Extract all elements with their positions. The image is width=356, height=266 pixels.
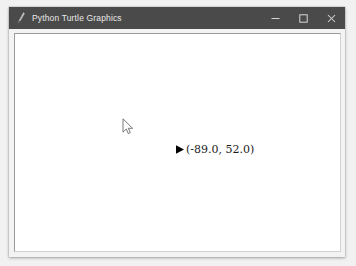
window-title: Python Turtle Graphics — [32, 13, 261, 23]
turtle-coordinate-label: (-89.0, 52.0) — [186, 144, 254, 155]
minimize-icon — [270, 13, 281, 24]
window-body: (-89.0, 52.0) — [9, 29, 345, 257]
turtle-arrow-icon — [175, 144, 185, 155]
minimize-button[interactable] — [261, 7, 289, 29]
turtle-graphics-window: Python Turtle Graphics — [9, 7, 345, 257]
window-titlebar[interactable]: Python Turtle Graphics — [9, 7, 345, 29]
turtle-drawing-canvas[interactable]: (-89.0, 52.0) — [14, 33, 341, 252]
mouse-pointer-icon — [122, 118, 134, 136]
maximize-icon — [298, 13, 309, 24]
turtle-with-coordinate-label: (-89.0, 52.0) — [175, 144, 254, 155]
maximize-button[interactable] — [289, 7, 317, 29]
close-button[interactable] — [317, 7, 345, 29]
close-icon — [326, 13, 337, 24]
desktop-background: Python Turtle Graphics — [0, 0, 356, 266]
turtle-pen-icon — [14, 11, 28, 25]
